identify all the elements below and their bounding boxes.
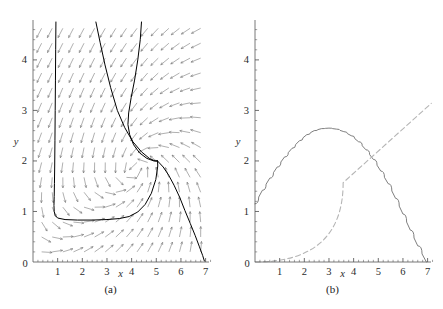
field-arrow-shaft [90,28,95,37]
field-arrow [158,227,162,237]
field-arrow-shaft [69,73,73,83]
field-arrow-shaft [90,43,95,52]
field-arrow-shaft [84,162,85,172]
field-arrow-shaft [116,230,124,237]
field-arrow [198,197,201,207]
figure-container: 012345671234xy (a) 012345671234xy (b) [0,0,443,309]
field-arrow-shaft [195,169,201,178]
field-arrow [47,43,52,52]
field-arrow [191,28,200,33]
field-arrow [95,206,106,208]
field-arrow [105,177,110,186]
field-arrow-shaft [141,28,148,36]
field-arrow-shaft [42,237,51,242]
field-arrow [195,169,201,178]
field-arrow [58,58,63,67]
field-arrow [42,251,52,253]
field-arrow [149,133,159,137]
field-arrow [181,143,190,148]
field-arrow [191,58,201,62]
field-arrow [51,177,53,187]
x-tick-label: 1 [55,266,60,277]
field-arrow [58,43,63,52]
field-arrow-shaft [126,244,133,252]
field-arrow-shaft [58,43,63,52]
field-arrow-shaft [90,73,95,82]
field-arrow-shaft [49,118,53,128]
x-tick-label: 5 [154,266,159,277]
field-arrow [140,133,148,140]
field-arrow [169,212,172,222]
phase-portrait-plot: 012345671234xy [0,0,221,285]
field-arrow [159,118,169,122]
field-arrow [190,88,200,91]
field-arrow [105,245,113,252]
field-arrow-shaft [105,231,113,237]
field-arrow [42,237,51,242]
field-arrow-shaft [38,118,42,128]
field-arrow-shaft [171,43,179,49]
field-arrow [141,43,148,51]
field-arrow-shaft [161,43,169,50]
field-arrow [159,145,169,148]
field-arrow-shaft [79,28,84,37]
field-arrow-shaft [112,133,116,143]
field-arrow-shaft [111,58,116,67]
field-arrow [191,43,200,48]
field-arrow-shaft [193,155,201,162]
field-arrow-shaft [59,103,63,113]
x-tick-label: 3 [104,266,109,277]
field-arrow [110,28,115,37]
field-arrow [111,73,116,82]
field-arrow-shaft [110,43,115,52]
field-arrow-shaft [116,244,123,251]
field-arrow [116,230,124,237]
field-arrow [116,244,123,251]
x-tick-label: 0 [244,258,249,269]
field-arrow-shaft [141,73,148,81]
field-arrow [63,192,66,202]
curve-group [255,103,431,262]
field-arrow-shaft [59,88,63,98]
field-arrow-shaft [161,58,169,65]
field-arrow-shaft [48,103,52,113]
field-arrow [52,237,62,240]
field-arrow-shaft [183,155,190,162]
field-arrow [169,197,171,207]
field-arrow-shaft [37,88,41,98]
field-arrow [105,231,113,237]
field-arrow [69,28,74,37]
field-arrow-shaft [100,73,105,82]
field-arrow [38,118,42,128]
field-arrow-shaft [84,247,93,252]
field-arrow [126,229,133,237]
field-arrow-shaft [191,43,200,48]
field-arrow [38,148,41,158]
field-arrow-shaft [63,207,69,215]
field-arrow [169,227,172,237]
field-arrow-shaft [48,58,53,67]
field-arrow-shaft [197,182,201,192]
field-arrow-shaft [121,73,127,82]
field-arrow-shaft [121,103,126,112]
field-arrow [150,88,158,95]
panel-a: 012345671234xy (a) [0,0,221,309]
field-arrow [84,207,94,210]
field-arrow [102,133,106,143]
field-arrow [158,133,168,135]
field-arrow [191,73,201,77]
field-arrow [48,103,52,113]
field-arrow [73,192,77,202]
field-arrow [121,73,127,82]
field-arrow [71,148,74,158]
field-arrow-shaft [69,43,74,52]
field-arrow [138,159,148,163]
field-arrow [148,228,153,237]
field-arrow-shaft [131,103,137,111]
field-arrow [148,147,158,149]
field-arrow-shaft [58,28,63,37]
field-arrow-shaft [91,103,95,113]
field-arrow [121,133,126,142]
field-arrow [63,207,69,215]
y-tick-label: 3 [22,105,27,116]
